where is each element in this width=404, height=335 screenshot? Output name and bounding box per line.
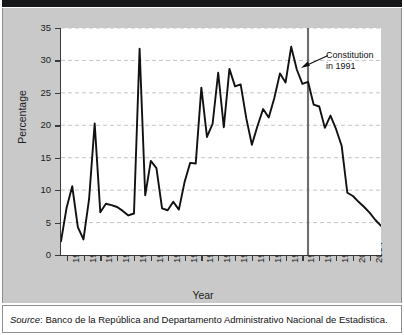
y-axis-tick-label: 5 xyxy=(29,218,51,228)
y-axis-tick-mark xyxy=(55,60,60,61)
x-axis-tick-mark xyxy=(269,256,270,261)
x-axis-tick-mark xyxy=(353,256,354,261)
x-axis-tick-mark xyxy=(151,256,152,261)
y-axis-tick-label: 10 xyxy=(29,185,51,195)
y-axis-tick-mark xyxy=(55,125,60,126)
source-caption: Source: Banco de la República and Depart… xyxy=(2,305,402,333)
x-axis-tick-mark xyxy=(218,256,219,261)
y-axis-tick-mark xyxy=(55,93,60,94)
x-axis-tick-mark xyxy=(84,256,85,261)
x-axis-tick-mark xyxy=(235,256,236,261)
top-dark-bar xyxy=(2,0,402,7)
source-prefix: Source xyxy=(10,314,40,325)
y-axis-tick-mark xyxy=(55,28,60,29)
source-body: : Banco de la República and Departamento… xyxy=(40,314,387,325)
y-axis-tick-label: 35 xyxy=(29,23,51,33)
y-axis-tick-label: 15 xyxy=(29,153,51,163)
y-axis-tick-mark xyxy=(55,158,60,159)
x-axis-tick-mark xyxy=(100,256,101,261)
x-axis-tick-mark xyxy=(117,256,118,261)
x-axis-tick-mark xyxy=(67,256,68,261)
y-axis-tick-label: 25 xyxy=(29,88,51,98)
chart-figure: Percentage 05101520253035 19501953195619… xyxy=(0,0,404,335)
x-axis-tick-mark xyxy=(370,256,371,261)
x-axis-tick-mark xyxy=(185,256,186,261)
x-axis-tick-mark xyxy=(302,256,303,261)
x-axis-tick-mark xyxy=(319,256,320,261)
figure-panel: Percentage 05101520253035 19501953195619… xyxy=(2,8,402,303)
x-axis-tick-mark xyxy=(134,256,135,261)
y-axis-tick-mark xyxy=(55,190,60,191)
y-axis-tick-label: 20 xyxy=(29,120,51,130)
x-axis-tick-mark xyxy=(336,256,337,261)
y-axis-tick-label: 0 xyxy=(29,250,51,260)
annotation-line-2: in 1991 xyxy=(326,61,374,72)
y-axis-tick-mark xyxy=(55,255,60,256)
data-series-line xyxy=(61,47,381,242)
x-axis-tick-mark xyxy=(201,256,202,261)
annotation-constitution: Constitution in 1991 xyxy=(326,50,374,72)
annotation-line-1: Constitution xyxy=(326,50,374,61)
x-axis-tick-mark xyxy=(168,256,169,261)
x-axis-title: Year xyxy=(3,289,403,301)
annotation-arrow-icon xyxy=(299,54,329,70)
x-axis-tick-mark xyxy=(286,256,287,261)
y-axis-tick-mark xyxy=(55,223,60,224)
y-axis-title: Percentage xyxy=(16,90,28,144)
y-axis-tick-label: 30 xyxy=(29,55,51,65)
x-axis-tick-mark xyxy=(252,256,253,261)
